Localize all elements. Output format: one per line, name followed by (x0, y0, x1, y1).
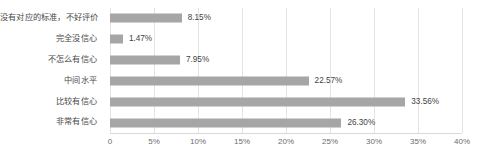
x-tick-label: 35% (410, 138, 426, 146)
bar-row: 完全没信心1.47% (0, 29, 484, 50)
bar-row: 非常有信心26.30% (0, 112, 484, 133)
bar-value-label: 22.57% (315, 77, 343, 85)
category-label: 没有对应的标准，不好评价 (0, 14, 97, 22)
bar-value-label: 7.95% (186, 56, 209, 64)
bar-row: 没有对应的标准，不好评价8.15% (0, 8, 484, 29)
x-tick-label: 0 (108, 138, 112, 146)
x-tick-label: 25% (322, 138, 338, 146)
x-axis-line (110, 133, 462, 134)
bar-value-label: 1.47% (129, 35, 152, 43)
bar (110, 14, 182, 23)
bar-chart: 没有对应的标准，不好评价8.15%完全没信心1.47%不怎么有信心7.95%中间… (0, 0, 484, 158)
bar-row: 比较有信心33.56% (0, 91, 484, 112)
bar (110, 56, 180, 65)
bar-value-label: 33.56% (411, 98, 439, 106)
category-label: 非常有信心 (0, 118, 97, 126)
bar (110, 118, 341, 127)
bar (110, 97, 405, 106)
bar-value-label: 26.30% (347, 118, 375, 126)
x-tick-label: 20% (278, 138, 294, 146)
x-tick-label: 30% (366, 138, 382, 146)
bar (110, 35, 123, 44)
category-label: 完全没信心 (0, 35, 97, 43)
bar-value-label: 8.15% (188, 14, 211, 22)
x-tick-label: 10% (190, 138, 206, 146)
bar-row: 不怎么有信心7.95% (0, 50, 484, 71)
category-label: 中间水平 (0, 77, 97, 85)
category-label: 不怎么有信心 (0, 56, 97, 64)
x-tick-label: 40% (454, 138, 470, 146)
x-tick-label: 15% (234, 138, 250, 146)
bar-rows: 没有对应的标准，不好评价8.15%完全没信心1.47%不怎么有信心7.95%中间… (0, 0, 484, 133)
bar-row: 中间水平22.57% (0, 71, 484, 92)
bar (110, 76, 309, 85)
x-tick-label: 5% (148, 138, 160, 146)
category-label: 比较有信心 (0, 98, 97, 106)
